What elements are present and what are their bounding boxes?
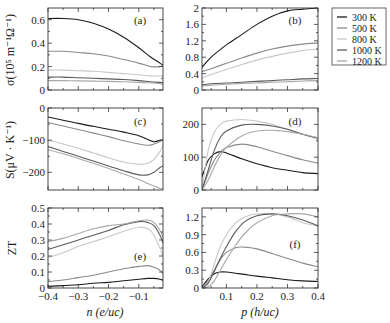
y-tick-label: 2 bbox=[194, 2, 200, 14]
y-tick-label: 1.2 bbox=[185, 35, 199, 47]
panel-label: (f) bbox=[290, 238, 301, 251]
x-tick-label: −0.1 bbox=[129, 290, 149, 302]
panel-e: −0.4−0.3−0.2−0.100.10.20.30.40.5(e) bbox=[31, 202, 163, 302]
series-line-1000k bbox=[48, 147, 163, 176]
y-tick-label: 0.2 bbox=[31, 61, 45, 73]
y-tick-label: 1.2 bbox=[185, 211, 199, 223]
panel-label: (b) bbox=[289, 14, 302, 27]
series-line-500k bbox=[202, 144, 318, 190]
y-tick-label: 0 bbox=[194, 282, 200, 294]
legend: 300 K500 K800 K1000 K1200 K bbox=[332, 8, 386, 67]
series-line-500k bbox=[48, 266, 163, 282]
xlabel-n: n (e/uc) bbox=[87, 305, 124, 319]
y-tick-label: 0.4 bbox=[31, 218, 45, 230]
y-tick-label: 100 bbox=[183, 151, 200, 163]
y-tick-label: 0.9 bbox=[185, 229, 199, 241]
panel-a: 00.20.40.6(a) bbox=[31, 8, 163, 96]
series-line-1200k bbox=[48, 150, 163, 189]
ylabel-seebeck: S(μV · K⁻¹) bbox=[3, 121, 17, 179]
legend-label: 500 K bbox=[352, 23, 378, 34]
y-tick-label: 0.4 bbox=[185, 68, 199, 80]
y-tick-label: 0 bbox=[194, 184, 200, 196]
series-group bbox=[202, 120, 318, 191]
y-tick-label: 0.8 bbox=[185, 51, 199, 63]
panel-label: (d) bbox=[289, 115, 302, 128]
series-group bbox=[202, 214, 318, 288]
y-tick-label: 0.2 bbox=[31, 250, 45, 262]
x-tick-label: −0.3 bbox=[68, 290, 88, 302]
y-tick-label: 0.1 bbox=[31, 266, 45, 278]
series-group bbox=[48, 117, 163, 189]
legend-label: 800 K bbox=[352, 34, 378, 45]
x-tick-label: 0.2 bbox=[250, 290, 264, 302]
x-tick-label: 0.1 bbox=[220, 290, 234, 302]
y-tick-label: −200 bbox=[22, 166, 45, 178]
y-tick-label: 0.3 bbox=[185, 264, 199, 276]
y-tick-label: 0.6 bbox=[31, 14, 45, 26]
y-tick-label: 200 bbox=[183, 118, 200, 130]
y-tick-label: 0 bbox=[40, 102, 46, 114]
x-tick-label: −0.2 bbox=[99, 290, 119, 302]
x-tick-label: 0.4 bbox=[311, 290, 325, 302]
panel-label: (e) bbox=[134, 250, 147, 263]
panel-b: 00.40.81.21.62(b) bbox=[185, 2, 318, 96]
y-tick-label: −100 bbox=[22, 134, 45, 146]
panel-f: 0.10.20.30.400.30.60.91.2(f) bbox=[185, 208, 325, 302]
y-tick-label: 0 bbox=[40, 84, 46, 96]
panel-c: 0−100−200(c) bbox=[22, 102, 163, 190]
series-group bbox=[48, 18, 163, 84]
series-line-300k bbox=[202, 152, 318, 177]
series-line-800k bbox=[202, 49, 318, 78]
series-line-1000k bbox=[48, 77, 163, 83]
series-line-500k bbox=[202, 247, 318, 288]
y-tick-label: 0.5 bbox=[31, 202, 45, 214]
y-tick-label: 0.3 bbox=[31, 234, 45, 246]
series-line-800k bbox=[48, 70, 163, 76]
panel-label: (a) bbox=[134, 14, 147, 27]
x-tick-label: 0.3 bbox=[281, 290, 295, 302]
legend-label: 300 K bbox=[352, 12, 378, 23]
legend-label: 1200 K bbox=[352, 56, 383, 67]
panels-group: 00.20.40.6(a)00.40.81.21.62(b)0−100−200(… bbox=[22, 2, 325, 302]
y-tick-label: 1.6 bbox=[185, 18, 199, 30]
y-tick-label: 0 bbox=[194, 84, 200, 96]
y-tick-label: 0.6 bbox=[185, 246, 199, 258]
y-tick-label: 0 bbox=[40, 282, 46, 294]
ylabel-zt: ZT bbox=[5, 240, 19, 255]
panel-label: (c) bbox=[134, 115, 147, 128]
panel-d: 0100200(d) bbox=[183, 108, 319, 196]
xlabel-p: p (h/uc) bbox=[240, 305, 279, 319]
ylabel-conductivity: σ(10⁵ m⁻¹Ω⁻¹) bbox=[3, 14, 17, 86]
series-line-500k bbox=[202, 43, 318, 72]
legend-label: 1000 K bbox=[352, 45, 383, 56]
series-line-300k bbox=[202, 272, 318, 287]
y-tick-label: 0.4 bbox=[31, 37, 45, 49]
figure-canvas: 00.20.40.6(a)00.40.81.21.62(b)0−100−200(… bbox=[0, 0, 390, 323]
